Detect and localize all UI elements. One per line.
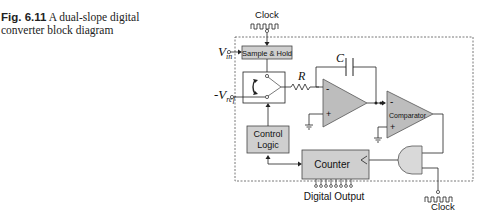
vref-terminal <box>230 95 233 98</box>
svg-text:Control: Control <box>253 129 282 139</box>
svg-text:+: + <box>390 122 395 132</box>
resistor-label: R <box>297 69 306 83</box>
integrator-opamp <box>323 79 367 127</box>
vref-label: -Vref <box>214 87 237 104</box>
switch-block <box>243 72 285 103</box>
svg-text:+: + <box>326 109 331 119</box>
comparator-label: Comparator <box>389 112 427 120</box>
svg-text:Logic: Logic <box>257 140 279 150</box>
clock-bottom-terminal <box>436 190 439 193</box>
clock-top-waveform-icon <box>251 24 278 29</box>
clock-top-label: Clock <box>255 9 279 20</box>
dual-slope-adc-diagram: Clock Vin Sample & Hold -Vref R - + C <box>0 0 481 212</box>
clock-bottom-label: Clock <box>431 201 455 212</box>
capacitor-label: C <box>336 51 345 65</box>
digital-output-pins <box>315 179 353 187</box>
vin-terminal <box>227 50 230 53</box>
svg-text:-: - <box>326 83 329 94</box>
sample-hold-label: Sample & Hold <box>242 49 292 58</box>
clock-top-terminal <box>265 29 268 32</box>
resistor-icon <box>291 84 319 90</box>
and-gate <box>398 146 422 174</box>
counter-label: Counter <box>314 159 350 170</box>
svg-text:-: - <box>390 96 393 107</box>
digital-output-label: Digital Output <box>304 191 365 202</box>
arrow-icon <box>265 42 270 46</box>
